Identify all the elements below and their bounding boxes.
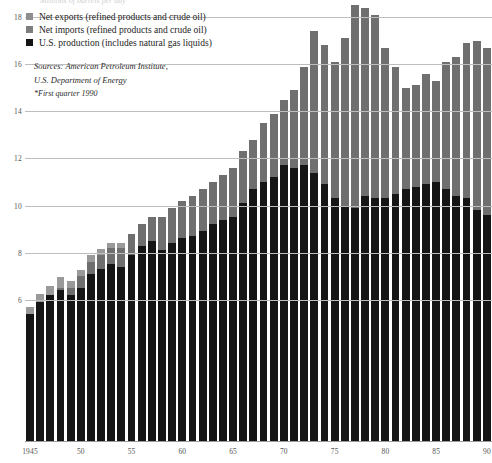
bar-segment-us-production xyxy=(270,177,278,441)
chart-bar xyxy=(199,0,207,441)
chart-bar xyxy=(178,0,186,441)
bar-segment-net-imports xyxy=(361,8,369,196)
bar-segment-us-production xyxy=(107,264,115,441)
chart-bar xyxy=(300,0,308,441)
chart-bar xyxy=(422,0,430,441)
x-axis-baseline xyxy=(25,441,492,442)
bar-segment-us-production xyxy=(239,203,247,441)
chart-bar xyxy=(239,0,247,441)
bar-segment-us-production xyxy=(138,246,146,441)
bar-segment-net-imports xyxy=(249,140,257,189)
chart-bar xyxy=(392,0,400,441)
bar-segment-net-exports xyxy=(107,243,115,248)
bar-segment-net-imports xyxy=(229,168,237,217)
bar-segment-net-imports xyxy=(209,182,217,224)
x-axis-tick-label: 50 xyxy=(77,447,85,456)
legend-label-net-exports: Net exports (refined products and crude … xyxy=(39,12,206,22)
chart-bar xyxy=(270,0,278,441)
bar-segment-net-imports xyxy=(310,31,318,172)
bar-segment-us-production xyxy=(432,182,440,441)
legend-swatch-icon-us-production xyxy=(26,39,33,46)
bar-segment-us-production xyxy=(46,295,54,441)
bar-segment-net-imports xyxy=(290,90,298,168)
bar-segment-net-imports xyxy=(148,217,156,241)
bar-segment-net-imports xyxy=(442,62,450,189)
bar-segment-net-exports xyxy=(87,255,95,262)
bar-segment-net-imports xyxy=(473,41,481,211)
bar-segment-us-production xyxy=(168,243,176,441)
bar-segment-net-imports xyxy=(351,5,359,208)
chart-bar xyxy=(260,0,268,441)
chart-bar xyxy=(442,0,450,441)
bar-segment-net-imports xyxy=(117,248,125,267)
bar-segment-us-production xyxy=(77,288,85,441)
footnote-first-quarter: *First quarter 1990 xyxy=(34,87,168,100)
chart-bar xyxy=(432,0,440,441)
legend-swatch-icon-net-imports xyxy=(26,26,33,33)
bar-segment-us-production xyxy=(260,182,268,441)
chart-bar xyxy=(310,0,318,441)
chart-bar xyxy=(189,0,197,441)
chart-container: Millions of barrels per day 181614121086… xyxy=(0,0,492,463)
bar-segment-us-production xyxy=(117,267,125,441)
bar-segment-net-imports xyxy=(280,100,288,166)
x-axis-tick-label: 65 xyxy=(229,447,237,456)
bar-segment-net-exports xyxy=(67,281,75,288)
sources-note: Sources: American Petroleum Institute, U… xyxy=(34,60,168,100)
y-axis-tick-label: 14 xyxy=(0,107,22,116)
chart-bar xyxy=(473,0,481,441)
x-axis-tick-label: 60 xyxy=(178,447,186,456)
chart-bar xyxy=(381,0,389,441)
bar-segment-us-production xyxy=(148,241,156,441)
bar-segment-net-imports xyxy=(57,288,65,290)
bar-segment-us-production xyxy=(36,302,44,441)
legend-label-us-production: U.S. production (includes natural gas li… xyxy=(39,38,212,48)
bar-segment-net-imports xyxy=(219,175,227,220)
gridline xyxy=(25,300,492,301)
legend-item-net-exports: Net exports (refined products and crude … xyxy=(26,10,212,23)
bar-segment-net-imports xyxy=(483,48,491,215)
y-axis-tick-label: 8 xyxy=(0,249,22,258)
bar-segment-us-production xyxy=(331,198,339,441)
chart-bar xyxy=(321,0,329,441)
x-axis-tick-label: 75 xyxy=(331,447,339,456)
sources-line-1: Sources: American Petroleum Institute, xyxy=(34,60,168,74)
bar-segment-net-imports xyxy=(168,208,176,243)
gridline xyxy=(25,158,492,159)
chart-bar xyxy=(412,0,420,441)
bar-segment-us-production xyxy=(371,198,379,441)
x-axis-tick-label: 1945 xyxy=(22,447,38,456)
bar-segment-us-production xyxy=(412,187,420,441)
bar-segment-net-imports xyxy=(452,57,460,196)
bar-segment-us-production xyxy=(300,165,308,441)
y-axis-tick-label: 18 xyxy=(0,13,22,22)
bar-segment-us-production xyxy=(341,206,349,442)
bar-segment-us-production xyxy=(392,194,400,441)
bar-segment-us-production xyxy=(57,290,65,441)
chart-bar xyxy=(219,0,227,441)
bar-segment-net-imports xyxy=(260,123,268,182)
chart-bar xyxy=(351,0,359,441)
bar-segment-net-imports xyxy=(67,288,75,295)
x-axis-tick-label: 70 xyxy=(280,447,288,456)
legend-swatch-icon-net-exports xyxy=(26,13,33,20)
x-axis-tick-label: 85 xyxy=(432,447,440,456)
bar-segment-us-production xyxy=(442,189,450,441)
bar-segment-net-imports xyxy=(199,189,207,231)
bar-segment-us-production xyxy=(290,168,298,441)
bar-segment-us-production xyxy=(97,269,105,441)
x-axis-tick-label: 80 xyxy=(381,447,389,456)
legend-item-us-production: U.S. production (includes natural gas li… xyxy=(26,36,212,49)
bar-segment-us-production xyxy=(473,210,481,441)
bar-segment-us-production xyxy=(381,198,389,441)
bar-segment-net-imports xyxy=(392,67,400,194)
bar-segment-us-production xyxy=(361,196,369,441)
y-axis-tick-label: 10 xyxy=(0,202,22,211)
bar-segment-net-imports xyxy=(371,15,379,199)
y-axis-tick-label: 6 xyxy=(0,296,22,305)
chart-bar xyxy=(361,0,369,441)
bar-segment-net-imports xyxy=(97,255,105,269)
bar-segment-net-imports xyxy=(432,81,440,182)
bar-segment-us-production xyxy=(178,238,186,441)
bar-segment-net-exports xyxy=(26,307,34,314)
